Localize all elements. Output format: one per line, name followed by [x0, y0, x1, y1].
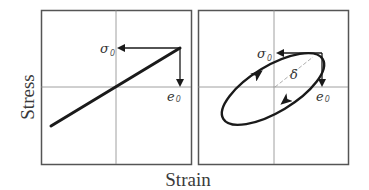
- e0-label: e0: [316, 89, 330, 104]
- e0-label: e0: [167, 89, 181, 104]
- y-axis-title: Stress: [17, 74, 38, 119]
- left-panel-elastic: σ0 e0: [41, 10, 192, 165]
- sigma0-label: σ0: [257, 46, 272, 63]
- stress-strain-diagram: σ0 e0 σ0 δ e0 Stress Strain: [0, 0, 369, 190]
- loop-direction-arrow-lower: [285, 91, 297, 101]
- x-axis-title: Strain: [165, 169, 211, 190]
- right-panel-frame: [199, 11, 349, 165]
- right-panel-viscoelastic: σ0 δ e0: [198, 10, 349, 165]
- delta-phase-label: δ: [290, 67, 298, 82]
- sigma0-label: σ0: [100, 41, 115, 58]
